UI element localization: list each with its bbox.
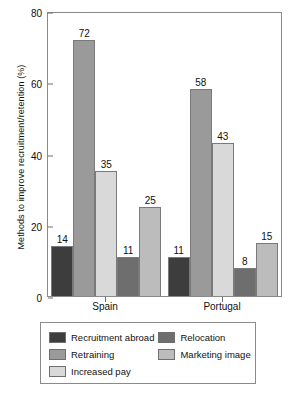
- bar: 11: [168, 257, 190, 296]
- bar-groups: 1472351125115843815: [48, 13, 281, 296]
- legend-item[interactable]: Recruitment abroad: [49, 329, 154, 346]
- legend-swatch: [49, 349, 66, 360]
- bar: 14: [51, 246, 73, 296]
- y-tick-label: 20: [31, 221, 48, 232]
- x-axis-label: Spain: [92, 301, 118, 312]
- legend-item[interactable]: Relocation: [158, 329, 250, 346]
- y-tick-label: 80: [31, 8, 48, 19]
- bar-value-label: 35: [101, 160, 112, 170]
- chart-figure: Methods to improve recruitment/retention…: [0, 0, 296, 399]
- bar-group: 115843815: [168, 13, 278, 296]
- legend-swatch: [158, 332, 175, 343]
- bar-value-label: 14: [57, 235, 68, 245]
- y-axis-title: Methods to improve recruitment/retention…: [16, 32, 26, 282]
- bar-group: 1472351125: [51, 13, 161, 296]
- bar-value-label: 25: [145, 196, 156, 206]
- bar: 35: [95, 171, 117, 296]
- bar: 8: [234, 268, 256, 297]
- legend-item[interactable]: Increased pay: [49, 363, 154, 380]
- bar-value-label: 11: [123, 246, 133, 256]
- y-tick-label: 0: [36, 293, 48, 304]
- bar-value-label: 8: [242, 257, 248, 267]
- bar-value-label: 15: [261, 232, 272, 242]
- legend-swatch: [49, 366, 66, 377]
- legend-label: Marketing image: [180, 349, 250, 360]
- legend-item[interactable]: Retraining: [49, 346, 154, 363]
- bar-value-label: 58: [195, 78, 206, 88]
- legend-swatch: [49, 332, 66, 343]
- legend-label: Recruitment abroad: [71, 332, 154, 343]
- bar-value-label: 43: [217, 132, 228, 142]
- legend-item[interactable]: Marketing image: [158, 346, 250, 363]
- y-tick-mark: [48, 298, 53, 299]
- x-tick-mark: [105, 297, 106, 302]
- chart-legend: Recruitment abroadRelocationRetrainingMa…: [40, 322, 256, 384]
- bar-value-label: 11: [174, 246, 184, 256]
- bar: 11: [117, 257, 139, 296]
- bar: 25: [139, 207, 161, 296]
- bar: 15: [256, 243, 278, 296]
- x-axis-label: Portugal: [203, 301, 240, 312]
- legend-label: Relocation: [180, 332, 225, 343]
- y-tick-label: 40: [31, 150, 48, 161]
- legend-swatch: [158, 349, 175, 360]
- bar: 58: [190, 89, 212, 296]
- bar-value-label: 72: [79, 29, 90, 39]
- bar: 43: [212, 143, 234, 296]
- legend-label: Retraining: [71, 349, 114, 360]
- y-tick-label: 60: [31, 79, 48, 90]
- legend-label: Increased pay: [71, 366, 131, 377]
- bar: 72: [73, 40, 95, 297]
- x-tick-mark: [222, 297, 223, 302]
- plot-area: 020406080 1472351125115843815: [47, 12, 282, 297]
